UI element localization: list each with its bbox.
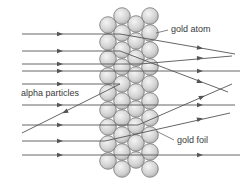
arrowhead-icon bbox=[61, 109, 68, 116]
gold-atom bbox=[142, 144, 159, 161]
label-gold-atom: gold atom bbox=[171, 25, 211, 34]
gold-atom bbox=[142, 8, 159, 25]
arrowhead-icon bbox=[57, 32, 63, 37]
gold-atom bbox=[114, 161, 131, 178]
gold-atom bbox=[142, 59, 159, 76]
arrowhead-icon bbox=[198, 94, 205, 101]
gold-atom bbox=[142, 161, 159, 178]
arrowhead-icon bbox=[57, 123, 63, 128]
gold-atom bbox=[142, 93, 159, 110]
arrowhead-icon bbox=[57, 153, 63, 158]
gold-atom bbox=[142, 42, 159, 59]
gold-foil-diagram: gold atom alpha particles gold foil bbox=[0, 0, 252, 185]
gold-atom bbox=[142, 110, 159, 127]
gold-foil-atoms bbox=[100, 8, 159, 178]
arrowhead-icon bbox=[197, 103, 203, 108]
arrowhead-icon bbox=[197, 69, 203, 74]
label-gold-foil: gold foil bbox=[177, 136, 208, 145]
arrowhead-icon bbox=[57, 139, 63, 144]
gold-atom bbox=[142, 76, 159, 93]
arrowhead-icon bbox=[197, 55, 203, 60]
arrowhead-icon bbox=[57, 103, 63, 108]
arrowhead-icon bbox=[57, 82, 63, 87]
gold-foil-leader-line bbox=[156, 131, 174, 140]
arrowhead-icon bbox=[57, 69, 63, 74]
arrowhead-icon bbox=[57, 49, 63, 54]
label-alpha-particles: alpha particles bbox=[21, 89, 79, 98]
label-leader-lines bbox=[156, 30, 174, 140]
arrowhead-icon bbox=[197, 153, 203, 158]
arrowhead-icon bbox=[57, 62, 63, 67]
